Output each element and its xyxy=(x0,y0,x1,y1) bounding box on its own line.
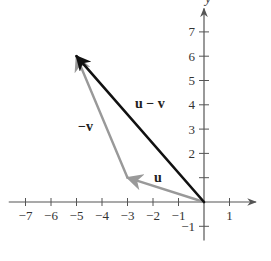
vector-uv xyxy=(77,56,205,202)
vectors xyxy=(77,56,205,202)
y-tick-label: 3 xyxy=(189,122,196,137)
vector-diagram: −7−6−5−4−3−2−11−1234567xy u−vu − v xyxy=(0,0,271,261)
axes: −7−6−5−4−3−2−11−1234567xy xyxy=(9,0,271,240)
x-tick-label: −6 xyxy=(44,208,58,223)
y-tick-label: 7 xyxy=(189,24,196,39)
x-tick-label: −7 xyxy=(19,208,33,223)
vector-label: u xyxy=(154,170,162,185)
vector-v-neg xyxy=(77,56,128,178)
x-tick-label: −5 xyxy=(70,208,84,223)
y-tick-label: 2 xyxy=(189,146,196,161)
x-tick-label: 1 xyxy=(226,208,233,223)
y-axis-label: y xyxy=(203,0,212,6)
vector-label: −v xyxy=(78,119,93,134)
vector-label: u − v xyxy=(135,96,165,111)
y-tick-label: 5 xyxy=(189,73,196,88)
y-tick-label: 4 xyxy=(189,97,196,112)
y-tick-label: 6 xyxy=(189,49,196,64)
x-tick-label: −2 xyxy=(146,208,160,223)
x-tick-label: −3 xyxy=(121,208,135,223)
y-tick-label: −1 xyxy=(181,219,195,234)
x-tick-label: −4 xyxy=(95,208,109,223)
